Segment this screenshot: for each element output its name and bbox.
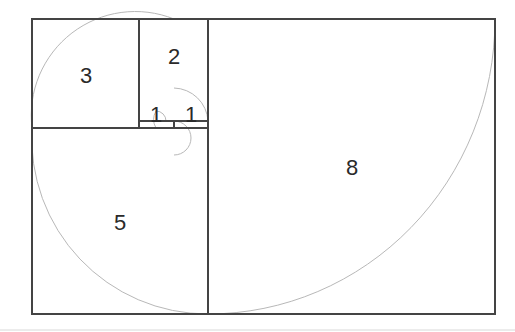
label-1b: 1 bbox=[185, 102, 197, 127]
label-3: 3 bbox=[80, 63, 92, 88]
outer-rectangle bbox=[32, 19, 495, 314]
label-1a: 1 bbox=[150, 102, 162, 127]
label-5: 5 bbox=[114, 210, 126, 235]
fibonacci-diagram: 3 2 1 1 5 8 bbox=[0, 0, 515, 332]
golden-spiral bbox=[31, 12, 495, 314]
label-8: 8 bbox=[346, 155, 358, 180]
label-2: 2 bbox=[168, 44, 180, 69]
